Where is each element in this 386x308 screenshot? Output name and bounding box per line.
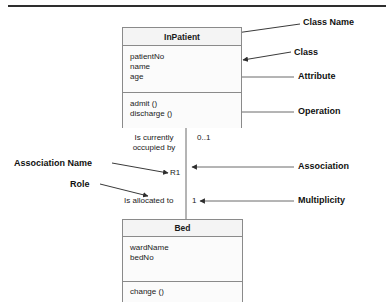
class-box-inpatient[interactable]: InPatient patientNo name age admit () di… xyxy=(122,27,242,128)
operation-item: discharge () xyxy=(130,109,241,119)
callout-class-name: Class Name xyxy=(303,17,354,28)
association-name-line2: occupied by xyxy=(126,143,182,153)
leader-role xyxy=(100,184,148,196)
multiplicity-bottom: 1 xyxy=(192,196,196,206)
association-role: Is allocated to xyxy=(124,196,173,206)
callout-multiplicity: Multiplicity xyxy=(298,195,345,206)
callout-operation: Operation xyxy=(298,106,341,117)
operations-compartment-inpatient: admit () discharge () xyxy=(123,92,241,128)
callout-attribute: Attribute xyxy=(298,71,336,82)
attribute-item: name xyxy=(130,62,241,72)
class-name-bed: Bed xyxy=(123,220,242,237)
attributes-compartment-bed: wardName bedNo xyxy=(123,237,242,281)
multiplicity-top: 0..1 xyxy=(197,133,210,143)
operations-compartment-bed: change () xyxy=(123,281,242,302)
class-name-inpatient: InPatient xyxy=(123,28,241,46)
callout-role: Role xyxy=(70,179,90,190)
association-name-line1: Is currently xyxy=(126,133,182,143)
attribute-item: age xyxy=(130,72,241,82)
association-identifier: R1 xyxy=(170,168,180,178)
operation-item: admit () xyxy=(130,99,241,109)
attributes-compartment-inpatient: patientNo name age xyxy=(123,46,241,92)
leader-class xyxy=(243,52,291,60)
leader-association-name xyxy=(112,163,168,173)
attribute-item: wardName xyxy=(130,243,242,253)
callout-association-name: Association Name xyxy=(14,158,92,169)
attribute-item: bedNo xyxy=(130,253,242,263)
attribute-item: patientNo xyxy=(130,52,241,62)
operation-item: change () xyxy=(130,287,242,297)
callout-class: Class xyxy=(294,47,318,58)
uml-class-diagram: InPatient patientNo name age admit () di… xyxy=(0,0,386,308)
callout-association: Association xyxy=(298,161,349,172)
class-box-bed[interactable]: Bed wardName bedNo change () xyxy=(122,219,243,302)
